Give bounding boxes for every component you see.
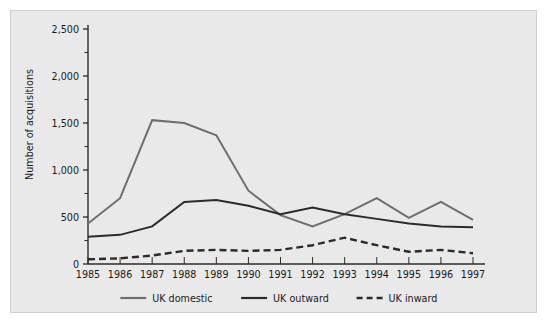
y-tick-label: 1,500 <box>52 118 79 129</box>
x-tick-label: 1990 <box>236 269 260 280</box>
series-line-uk-domestic <box>88 120 473 226</box>
line-chart: 05001,0001,5002,0002,5001985198619871988… <box>11 11 538 314</box>
y-tick-label: 0 <box>73 259 79 270</box>
y-tick-label: 2,000 <box>52 71 79 82</box>
y-tick-label: 2,500 <box>52 24 79 35</box>
legend-label-uk-inward: UK inward <box>389 293 438 304</box>
x-tick-label: 1993 <box>332 269 356 280</box>
x-tick-label: 1997 <box>461 269 485 280</box>
x-tick-label: 1991 <box>268 269 292 280</box>
y-tick-label: 1,000 <box>52 165 79 176</box>
chart-plot-area: 05001,0001,5002,0002,5001985198619871988… <box>11 11 538 314</box>
series-line-uk-inward <box>88 238 473 260</box>
x-tick-label: 1986 <box>108 269 132 280</box>
x-tick-label: 1989 <box>204 269 228 280</box>
x-tick-label: 1995 <box>397 269 421 280</box>
x-tick-label: 1985 <box>76 269 100 280</box>
series-line-uk-outward <box>88 200 473 237</box>
x-tick-label: 1996 <box>429 269 453 280</box>
legend-label-uk-domestic: UK domestic <box>152 293 212 304</box>
y-axis-title: Number of acquisitions <box>24 69 35 180</box>
x-tick-label: 1992 <box>300 269 324 280</box>
chart-figure-panel: 05001,0001,5002,0002,5001985198619871988… <box>10 10 537 313</box>
x-tick-label: 1987 <box>140 269 164 280</box>
x-tick-label: 1988 <box>172 269 196 280</box>
legend-label-uk-outward: UK outward <box>273 293 329 304</box>
x-tick-label: 1994 <box>365 269 389 280</box>
y-tick-label: 500 <box>61 212 79 223</box>
